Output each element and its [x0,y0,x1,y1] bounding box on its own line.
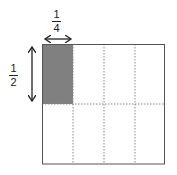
fraction-area-diagram [0,0,177,175]
width-denominator: 4 [53,23,59,34]
height-denominator: 2 [10,77,16,88]
width-fraction-label: 1 4 [52,9,61,34]
width-numerator: 1 [53,9,59,20]
height-numerator: 1 [10,63,16,74]
shaded-cell [42,44,73,104]
height-fraction-label: 1 2 [9,63,18,88]
